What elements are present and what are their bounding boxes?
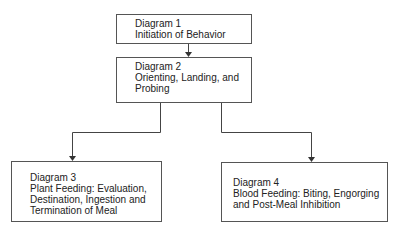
diagram-3-line: Termination of Meal (30, 205, 147, 216)
diagram-2-title: Diagram 2 (135, 61, 239, 72)
diagram-2-text: Diagram 2 Orienting, Landing, and Probin… (135, 61, 239, 94)
diagram-3-text: Diagram 3 Plant Feeding: Evaluation, Des… (30, 172, 147, 216)
edge-d2-d4 (222, 102, 312, 159)
diagram-1-text: Diagram 1 Initiation of Behavior (135, 18, 226, 40)
diagram-2-line: Orienting, Landing, and (135, 72, 239, 83)
diagram-1-title: Diagram 1 (135, 18, 226, 29)
edge-d2-d3 (73, 102, 161, 158)
diagram-4-title: Diagram 4 (233, 177, 379, 188)
diagram-3-title: Diagram 3 (30, 172, 147, 183)
diagram-1-line: Initiation of Behavior (135, 29, 226, 40)
diagram-2-line: Probing (135, 83, 239, 94)
diagram-4-line: and Post-Meal Inhibition (233, 199, 379, 210)
diagram-3-line: Destination, Ingestion and (30, 194, 147, 205)
diagram-4-text: Diagram 4 Blood Feeding: Biting, Engorgi… (233, 177, 379, 210)
diagram-3-line: Plant Feeding: Evaluation, (30, 183, 147, 194)
diagram-4-line: Blood Feeding: Biting, Engorging (233, 188, 379, 199)
